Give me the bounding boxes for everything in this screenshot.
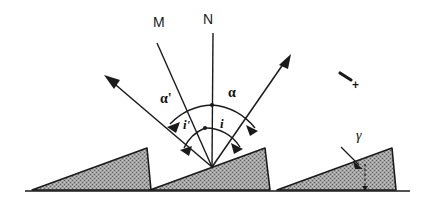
arc-center-tick-i bbox=[203, 126, 207, 130]
figure-canvas: M N α' α i' i γ + bbox=[0, 0, 426, 202]
label-angle-i: i bbox=[220, 117, 224, 130]
label-angle-i-prime: i' bbox=[183, 118, 190, 131]
double-arrowhead-icon-alpha-end bbox=[246, 125, 258, 136]
double-arrowhead-icon-i-end bbox=[231, 143, 243, 154]
ray-line-n bbox=[212, 33, 213, 167]
angle-arc-alpha bbox=[212, 105, 255, 128]
label-sign-plus: + bbox=[352, 79, 359, 91]
diagram-svg bbox=[0, 0, 426, 202]
ray-line-outgoing-right bbox=[212, 60, 286, 167]
label-angle-alpha: α bbox=[228, 86, 236, 100]
facet-triangle-2 bbox=[150, 148, 270, 190]
label-angle-gamma: γ bbox=[356, 129, 362, 143]
plus-annotation-group bbox=[340, 73, 351, 80]
double-arrowhead-icon-alpha-prime-end bbox=[167, 122, 180, 133]
facet-triangle-1 bbox=[32, 148, 151, 190]
label-angle-alpha-prime: α' bbox=[160, 92, 172, 106]
plus-annotation-tick bbox=[340, 73, 351, 80]
ray-group bbox=[104, 33, 291, 167]
arc-center-tick-alpha bbox=[210, 103, 214, 107]
gamma-pointer-line bbox=[341, 147, 359, 165]
facet-triangle-3 bbox=[277, 148, 396, 190]
double-arrowhead-icon-i-prime-end bbox=[180, 146, 192, 156]
sawtooth-surface bbox=[25, 148, 410, 191]
label-ray-m: M bbox=[153, 15, 165, 29]
label-ray-n: N bbox=[203, 12, 213, 26]
